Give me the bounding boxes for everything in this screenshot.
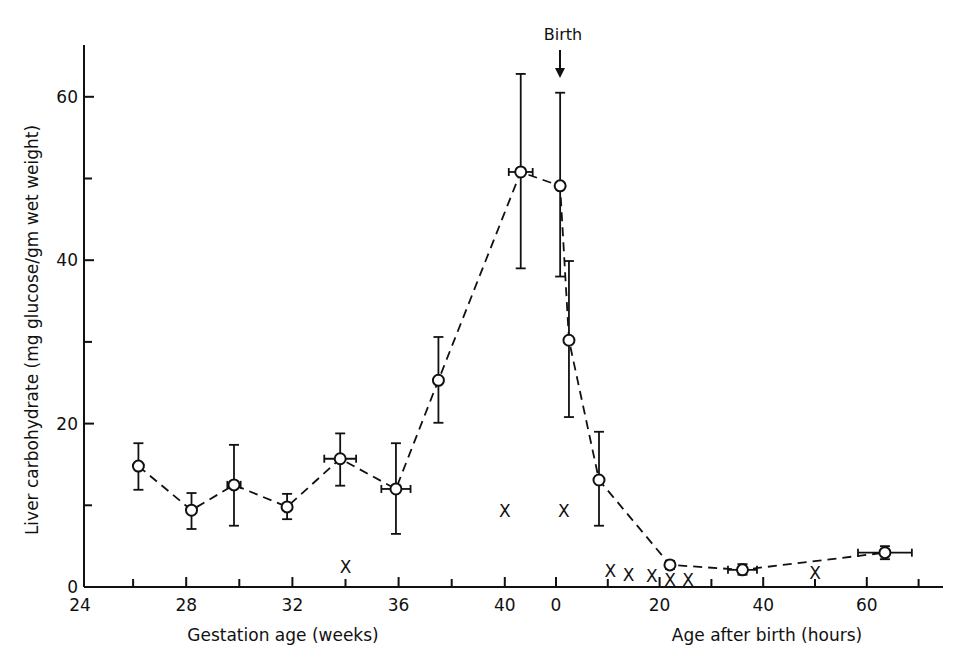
data-point-circle — [664, 559, 675, 570]
data-markers — [133, 166, 891, 575]
x-marker: X — [623, 565, 635, 585]
x-tick-label: 40 — [752, 595, 774, 615]
x-marker: X — [809, 563, 821, 583]
x-tick-label: 28 — [175, 595, 197, 615]
x-tick-label: 20 — [649, 595, 671, 615]
x-axis-gestation-title: Gestation age (weeks) — [187, 625, 378, 645]
data-point-circle — [186, 505, 197, 516]
y-tick-label: 40 — [56, 250, 78, 270]
birth-annotation: Birth — [544, 25, 582, 78]
error-bars — [133, 74, 911, 575]
x-marker: X — [340, 557, 352, 577]
x-marker: X — [646, 566, 658, 586]
y-axis-title: Liver carbohydrate (mg glucose/gm wet we… — [22, 125, 42, 535]
data-point-circle — [335, 453, 346, 464]
x-marker: X — [682, 570, 694, 590]
data-point-circle — [555, 180, 566, 191]
data-point-circle — [282, 501, 293, 512]
x-marker: X — [605, 561, 617, 581]
x-axis-postnatal-title: Age after birth (hours) — [672, 625, 862, 645]
dashed-trend-line — [138, 172, 885, 570]
x-tick-label: 0 — [551, 595, 562, 615]
individual-value-markers: XXXXXXXXX — [340, 501, 822, 590]
data-point-circle — [737, 564, 748, 575]
data-point-circle — [879, 547, 890, 558]
axes — [84, 45, 943, 587]
data-point-circle — [593, 474, 604, 485]
axis-ticks: 020406024283236400204060 — [56, 87, 918, 615]
data-point-circle — [133, 461, 144, 472]
dashed-connector-lines — [138, 172, 885, 570]
x-tick-label: 60 — [856, 595, 878, 615]
data-point-circle — [228, 479, 239, 490]
birth-label: Birth — [544, 25, 582, 44]
x-marker: X — [664, 570, 676, 590]
x-tick-label: 24 — [69, 595, 91, 615]
x-tick-label: 40 — [494, 595, 516, 615]
x-tick-label: 36 — [388, 595, 410, 615]
x-tick-label: 32 — [282, 595, 304, 615]
birth-arrow-icon — [555, 68, 565, 78]
y-tick-label: 20 — [56, 414, 78, 434]
data-point-circle — [390, 483, 401, 494]
data-point-circle — [515, 166, 526, 177]
x-marker: X — [499, 501, 511, 521]
data-point-circle — [563, 335, 574, 346]
y-tick-label: 60 — [56, 87, 78, 107]
y-tick-label: 0 — [67, 577, 78, 597]
x-marker: X — [558, 501, 570, 521]
data-point-circle — [433, 375, 444, 386]
chart: 020406024283236400204060 XXXXXXXXX Liver… — [0, 0, 962, 668]
